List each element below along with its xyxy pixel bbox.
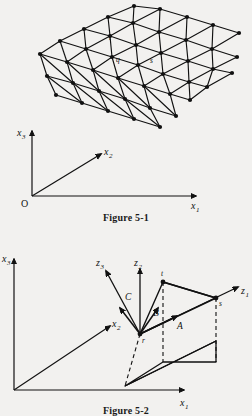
- vector-label-A: A: [176, 321, 183, 331]
- point-label-s: s: [219, 299, 222, 308]
- caption-figure-5-2: Figure 5-2: [0, 405, 252, 416]
- axis-label-z1: z1: [240, 285, 249, 299]
- origin-label-figure-1: O: [21, 198, 28, 209]
- vector-label-B: B: [153, 308, 159, 318]
- mesh-label-r: r: [117, 73, 120, 82]
- point-label-t: t: [161, 269, 164, 278]
- axis-x2-line-2: [14, 326, 110, 390]
- point-s-dot: [214, 296, 219, 301]
- vector-C-line: [120, 308, 140, 334]
- axis-x2-line: [32, 154, 101, 196]
- caption-figure-5-1: Figure 5-1: [0, 212, 252, 223]
- axis-label-x3-2: x3: [1, 253, 11, 267]
- point-t-dot: [161, 280, 166, 285]
- mesh-label-t: t: [109, 33, 112, 42]
- figure-5-1: t q s r x3 x1 x2 O: [0, 0, 252, 212]
- vector-label-C: C: [125, 292, 132, 302]
- figure-5-2: x3 x1 x2 z3 z2 z1 A B C: [0, 236, 252, 416]
- axis-label-z3: z3: [95, 257, 104, 271]
- axis-label-x2-2: x2: [111, 318, 121, 332]
- coordinate-frame-1: [32, 131, 196, 196]
- axis-label-x3: x3: [16, 127, 26, 141]
- point-label-r: r: [142, 336, 145, 345]
- mesh-label-s: s: [150, 56, 153, 65]
- projection-parallelogram: [125, 341, 216, 386]
- axis-label-x2: x2: [103, 146, 113, 160]
- figure-page: t q s r x3 x1 x2 O Figure 5-1: [0, 0, 252, 416]
- axis-label-z2: z2: [133, 257, 142, 271]
- axis-label-x1: x1: [190, 200, 199, 212]
- mesh-label-q: q: [116, 55, 120, 64]
- surface-mesh: [40, 6, 239, 127]
